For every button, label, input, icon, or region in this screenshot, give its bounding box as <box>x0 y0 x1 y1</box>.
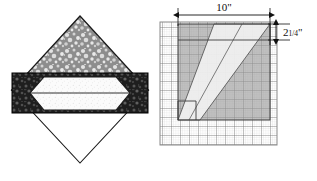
log-cross-section <box>10 14 152 163</box>
figure-page: 10" 21/4" <box>0 0 317 181</box>
thickness-dimension-label: 21/4" <box>283 26 303 38</box>
technical-figure: 10" 21/4" <box>0 0 317 181</box>
width-dimension-label: 10" <box>216 1 232 13</box>
grid-plan-view: 10" 21/4" <box>160 1 303 145</box>
board-void <box>30 77 130 110</box>
